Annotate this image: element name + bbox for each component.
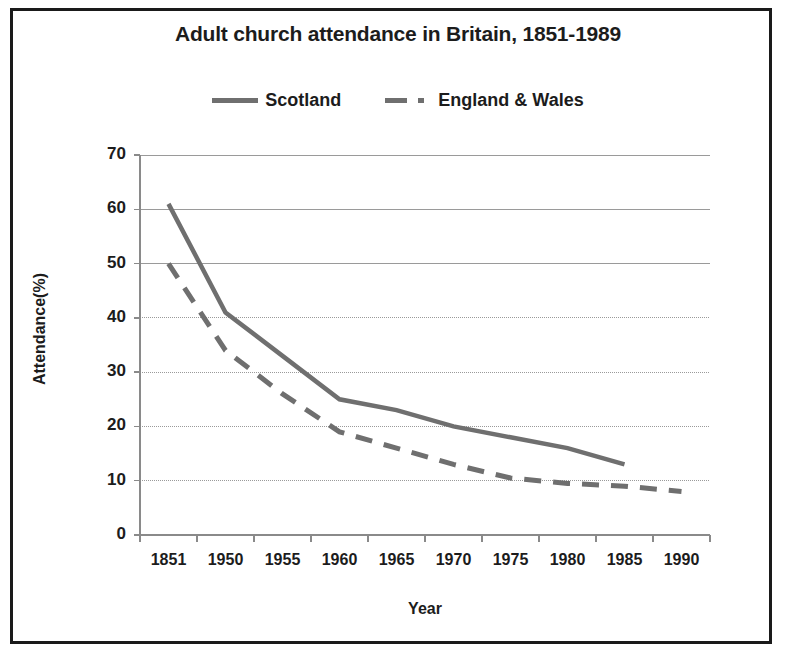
x-tick-marks <box>140 535 710 542</box>
x-tick-label: 1975 <box>482 551 539 569</box>
y-tick-label: 10 <box>86 470 126 490</box>
y-tick-marks <box>134 155 140 535</box>
y-tick-label: 70 <box>86 144 126 164</box>
x-tick-label: 1851 <box>140 551 197 569</box>
x-tick-label: 1980 <box>539 551 596 569</box>
y-axis-title: Attendance(%) <box>31 254 49 404</box>
y-tick-label: 20 <box>86 415 126 435</box>
x-tick-label: 1970 <box>425 551 482 569</box>
x-tick-label: 1990 <box>653 551 710 569</box>
y-tick-label: 60 <box>86 198 126 218</box>
y-tick-label: 0 <box>86 524 126 544</box>
x-tick-label: 1960 <box>311 551 368 569</box>
x-tick-label: 1985 <box>596 551 653 569</box>
x-tick-label: 1955 <box>254 551 311 569</box>
x-axis-title: Year <box>140 600 710 618</box>
axis-lines <box>140 155 710 535</box>
y-tick-label: 30 <box>86 361 126 381</box>
x-tick-label: 1950 <box>197 551 254 569</box>
chart-container: Adult church attendance in Britain, 1851… <box>0 0 796 664</box>
data-series-lines <box>169 204 682 492</box>
x-tick-label: 1965 <box>368 551 425 569</box>
series-line-scotland <box>169 204 625 465</box>
gridlines <box>140 155 710 535</box>
y-tick-label: 50 <box>86 253 126 273</box>
y-tick-label: 40 <box>86 307 126 327</box>
